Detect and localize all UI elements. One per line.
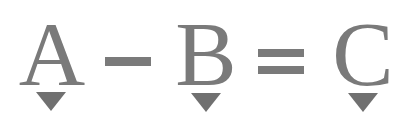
equals-sign-top-bar (258, 49, 304, 57)
down-triangle-icon-a (36, 92, 66, 111)
term-a: A (14, 8, 90, 100)
down-triangle-icon-b (191, 93, 221, 112)
equation-diagram: A B C (0, 0, 405, 127)
term-c: C (325, 8, 401, 100)
minus-sign (105, 57, 151, 66)
equals-sign-bottom-bar (258, 66, 304, 74)
down-triangle-icon-c (348, 93, 378, 112)
term-b: B (175, 8, 237, 100)
